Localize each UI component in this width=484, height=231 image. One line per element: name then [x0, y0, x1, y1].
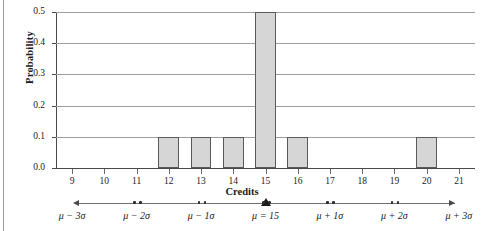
bar: [191, 137, 212, 168]
x-tick-label: 14: [221, 176, 245, 186]
x-tick-label: 16: [286, 176, 310, 186]
x-tick-mark: [330, 169, 331, 174]
x-tick-mark: [233, 169, 234, 174]
sigma-tick-dot: [262, 201, 265, 204]
x-tick-mark: [362, 169, 363, 174]
y-tick-mark: [52, 12, 56, 13]
sigma-tick-dot: [332, 201, 335, 204]
x-tick-label: 10: [92, 176, 116, 186]
sigma-tick-dot: [133, 201, 136, 204]
x-tick-mark: [104, 169, 105, 174]
x-tick-label: 17: [318, 176, 342, 186]
y-tick-mark: [52, 74, 56, 75]
x-tick-label: 9: [60, 176, 84, 186]
bar: [255, 12, 276, 168]
x-axis-title: Credits: [0, 186, 484, 197]
x-tick-mark: [459, 169, 460, 174]
sigma-tick-label: μ + 3σ: [419, 210, 484, 221]
sigma-tick-dot: [139, 201, 142, 204]
y-axis-title: Probability: [24, 3, 35, 113]
sigma-tick-dot: [268, 201, 271, 204]
y-tick-mark: [52, 168, 56, 169]
y-tick-label: 0.0: [15, 162, 45, 172]
sigma-axis: μ − 3σμ − 2σμ − 1σμ = 15μ + 1σμ + 2σμ + …: [0, 198, 484, 231]
bar: [158, 137, 179, 168]
sigma-tick-dot: [204, 201, 207, 204]
x-tick-mark: [298, 169, 299, 174]
x-tick-mark: [427, 169, 428, 174]
bar: [416, 137, 437, 168]
x-tick-label: 15: [254, 176, 278, 186]
y-tick-mark: [52, 106, 56, 107]
y-tick-mark: [52, 137, 56, 138]
bar: [223, 137, 244, 168]
y-tick-label: 0.5: [15, 6, 45, 16]
x-tick-label: 12: [157, 176, 181, 186]
plot-area: [56, 12, 475, 168]
x-tick-label: 21: [447, 176, 471, 186]
x-tick-mark: [72, 169, 73, 174]
bar: [287, 137, 308, 168]
sigma-arrow-left-icon: [73, 200, 79, 206]
sigma-arrow-right-icon: [449, 200, 455, 206]
x-tick-mark: [266, 169, 267, 174]
x-tick-label: 13: [189, 176, 213, 186]
chart-figure: Probability 0.00.10.20.30.40.5 910111213…: [0, 0, 484, 231]
y-tick-label: 0.1: [15, 131, 45, 141]
x-tick-label: 20: [415, 176, 439, 186]
y-tick-label: 0.4: [15, 37, 45, 47]
x-tick-mark: [169, 169, 170, 174]
y-tick-label: 0.2: [15, 100, 45, 110]
x-tick-label: 11: [125, 176, 149, 186]
sigma-tick-dot: [198, 201, 201, 204]
x-tick-label: 18: [350, 176, 374, 186]
x-tick-mark: [137, 169, 138, 174]
x-tick-label: 19: [382, 176, 406, 186]
sigma-tick-dot: [326, 201, 329, 204]
x-tick-mark: [394, 169, 395, 174]
x-tick-mark: [201, 169, 202, 174]
y-tick-mark: [52, 43, 56, 44]
y-tick-label: 0.3: [15, 68, 45, 78]
